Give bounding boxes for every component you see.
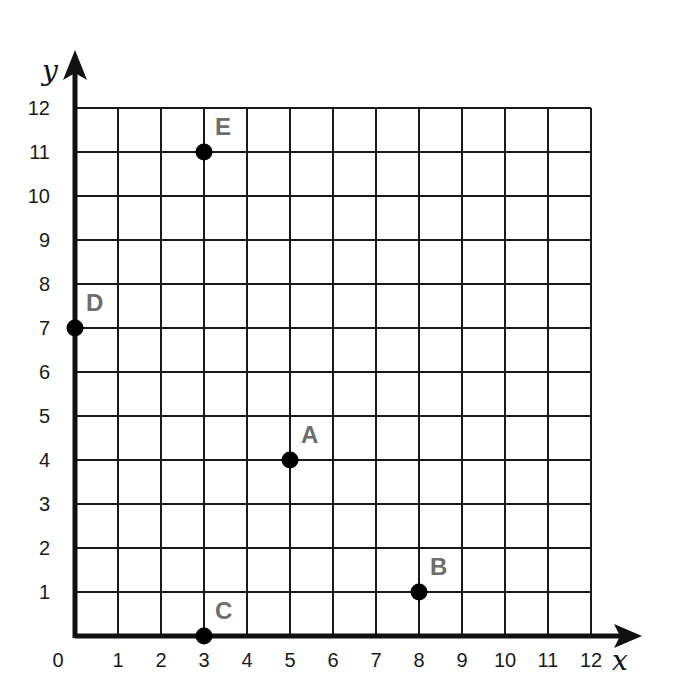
point-label: E: [215, 113, 231, 140]
data-point-a: A: [282, 421, 319, 469]
y-tick-label: 7: [39, 317, 50, 339]
data-points: ABCDE: [67, 113, 448, 645]
x-tick-label: 8: [413, 649, 424, 671]
point-marker-icon: [67, 320, 84, 337]
point-label: C: [215, 597, 232, 624]
x-tick-label: 12: [580, 649, 602, 671]
y-tick-label: 1: [39, 581, 50, 603]
y-tick-label: 5: [39, 405, 50, 427]
y-tick-label: 9: [39, 229, 50, 251]
grid-lines: [75, 108, 591, 636]
point-marker-icon: [196, 628, 213, 645]
data-point-d: D: [67, 289, 104, 337]
y-tick-label: 8: [39, 273, 50, 295]
point-label: A: [301, 421, 318, 448]
x-tick-label: 7: [370, 649, 381, 671]
point-label: B: [430, 553, 447, 580]
x-tick-label: 5: [284, 649, 295, 671]
x-tick-label: 0: [52, 649, 63, 671]
y-tick-label: 10: [28, 185, 50, 207]
point-marker-icon: [282, 452, 299, 469]
point-marker-icon: [411, 584, 428, 601]
y-tick-label: 4: [39, 449, 50, 471]
x-tick-label: 9: [456, 649, 467, 671]
x-tick-label: 2: [155, 649, 166, 671]
y-tick-label: 2: [39, 537, 50, 559]
y-tick-label: 6: [39, 361, 50, 383]
x-tick-label: 4: [241, 649, 252, 671]
data-point-b: B: [411, 553, 448, 601]
coordinate-grid-chart: 0123456789101112 123456789101112 x y ABC…: [0, 0, 684, 700]
y-tick-labels: 123456789101112: [28, 97, 50, 603]
axes: [63, 50, 642, 648]
point-label: D: [86, 289, 103, 316]
point-marker-icon: [196, 144, 213, 161]
x-tick-label: 11: [538, 649, 559, 671]
x-tick-label: 6: [327, 649, 338, 671]
y-tick-label: 3: [39, 493, 50, 515]
y-tick-label: 11: [29, 141, 50, 163]
x-tick-labels: 0123456789101112: [52, 649, 602, 671]
y-axis-label: y: [40, 54, 59, 87]
x-tick-label: 10: [494, 649, 516, 671]
data-point-e: E: [196, 113, 232, 161]
x-tick-label: 3: [198, 649, 209, 671]
x-axis-label: x: [612, 644, 628, 677]
y-tick-label: 12: [28, 97, 50, 119]
x-tick-label: 1: [112, 649, 123, 671]
